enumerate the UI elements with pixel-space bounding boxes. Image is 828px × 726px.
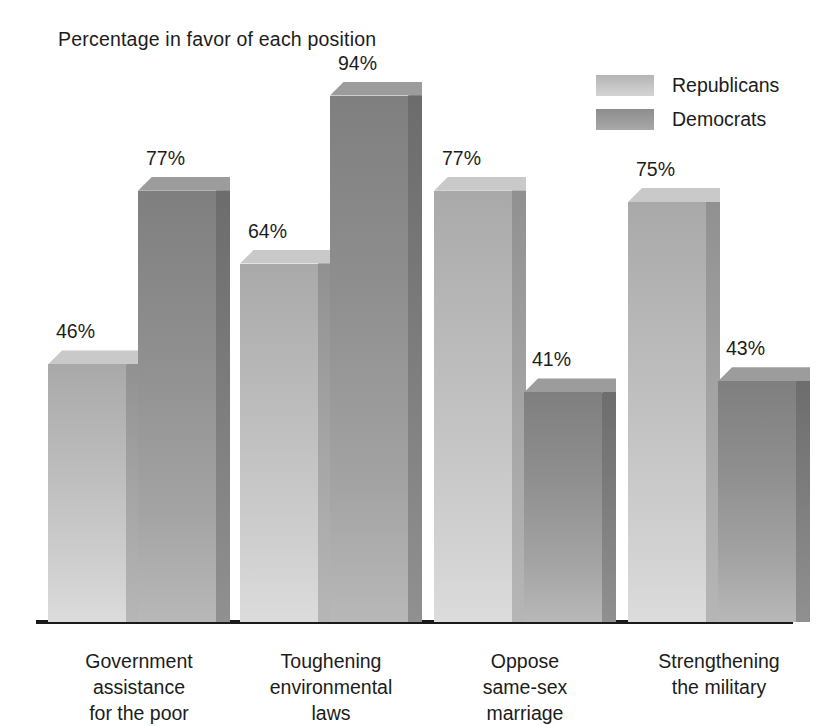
bar-democrats-2: [330, 96, 408, 622]
bar-top-face: [48, 350, 140, 364]
value-label-republicans-3: 77%: [442, 147, 481, 170]
bar-front-face: [524, 392, 602, 622]
bar-side-face: [216, 177, 230, 622]
bar-front-face: [48, 364, 126, 622]
bar-front-face: [718, 381, 796, 622]
value-label-democrats-3: 41%: [532, 348, 571, 371]
bar-top-face: [628, 188, 720, 202]
category-labels: Governmentassistancefor the poorTougheni…: [0, 640, 828, 723]
bar-top-face: [718, 367, 810, 381]
bar-republicans-2: [240, 264, 318, 622]
bar-side-face: [408, 82, 422, 622]
bar-side-face: [796, 367, 810, 622]
bar-front-face: [628, 202, 706, 622]
value-label-democrats-2: 94%: [338, 52, 377, 75]
bar-front-face: [240, 264, 318, 622]
bar-republicans-1: [48, 364, 126, 622]
value-label-democrats-1: 77%: [146, 147, 185, 170]
value-label-republicans-4: 75%: [636, 158, 675, 181]
bar-democrats-1: [138, 191, 216, 622]
bar-side-face: [602, 378, 616, 622]
value-label-democrats-4: 43%: [726, 337, 765, 360]
bar-front-face: [330, 96, 408, 622]
category-label-line: the military: [590, 674, 828, 700]
bar-front-face: [138, 191, 216, 622]
bar-front-face: [434, 191, 512, 622]
bar-top-face: [240, 250, 332, 264]
category-label-4: Strengtheningthe military: [590, 648, 828, 700]
category-label-line: marriage: [396, 700, 654, 726]
bar-democrats-4: [718, 381, 796, 622]
bar-democrats-3: [524, 392, 602, 622]
bar-top-face: [330, 82, 422, 96]
bar-top-face: [524, 378, 616, 392]
value-label-republicans-2: 64%: [248, 220, 287, 243]
bar-republicans-4: [628, 202, 706, 622]
category-label-line: Strengthening: [590, 648, 828, 674]
bar-top-face: [434, 177, 526, 191]
value-label-republicans-1: 46%: [56, 320, 95, 343]
bar-republicans-3: [434, 191, 512, 622]
bar-top-face: [138, 177, 230, 191]
